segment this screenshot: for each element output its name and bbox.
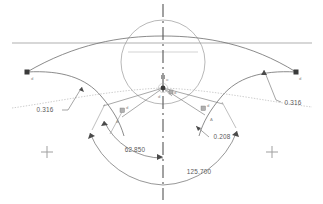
node-box-origin-right[interactable] <box>169 90 173 94</box>
point-label-right-endpoint: d <box>299 76 302 81</box>
right-transition-curve <box>199 72 296 136</box>
point-label-origin-lower: d <box>158 94 161 99</box>
cad-drawing-canvas[interactable]: 62.850 125.700 0.316 0.316 0.208 d d o d… <box>0 0 323 204</box>
technical-drawing-svg: 62.850 125.700 0.316 0.316 0.208 d d o d… <box>0 0 323 204</box>
node-box-left-arc[interactable] <box>120 108 125 113</box>
dimension-label-angle-inner[interactable]: 62.850 <box>125 146 146 153</box>
crosshair-left <box>41 146 53 158</box>
radial-spoke-left-inner <box>122 88 163 117</box>
point-label-triangle-right: A <box>210 117 213 122</box>
point-label-left-endpoint: d <box>31 76 34 81</box>
point-label-arc-right: d <box>207 103 210 108</box>
angular-dim-arrow-outer-start <box>88 133 95 139</box>
angular-dim-arrow-inner-end <box>157 154 163 160</box>
leader-arrow-0316-right <box>261 70 267 75</box>
witness-line-right-outer <box>222 102 236 128</box>
point-label-right-of-origin: d <box>174 90 177 95</box>
crosshair-right <box>266 146 278 158</box>
endpoint-marker-right[interactable] <box>294 70 299 75</box>
dimension-label-offset-right[interactable]: 0.316 <box>285 99 302 106</box>
origin-upper-node[interactable] <box>161 75 165 79</box>
endpoint-marker-left[interactable] <box>25 70 30 75</box>
point-label-arc-left: d <box>126 105 129 110</box>
node-box-right-arc[interactable] <box>201 106 206 111</box>
upper-envelope-curve <box>27 36 296 72</box>
dimension-label-radius-inner[interactable]: 0.208 <box>214 133 231 140</box>
dimension-label-offset-left[interactable]: 0.316 <box>37 106 54 113</box>
dotted-offset-curve <box>12 88 312 108</box>
witness-line-left-outer <box>92 104 105 130</box>
angular-dim-arrow-inner-start <box>101 121 108 126</box>
angular-dim-arrow-outer-end <box>232 131 239 137</box>
point-label-origin-upper: o <box>166 77 169 82</box>
dimension-label-angle-outer[interactable]: 125.700 <box>187 168 212 175</box>
origin-node-marker[interactable] <box>161 86 166 91</box>
leader-arrow-0208 <box>196 126 201 131</box>
point-label-triangle-left: A <box>116 119 119 124</box>
